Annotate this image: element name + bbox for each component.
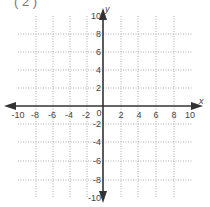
x-axis-label: x: [198, 96, 204, 106]
y-tick-labels: 10 8 6 4 2 -2 -4 -6 -8 -10: [88, 11, 101, 203]
y-tick: -8: [93, 175, 101, 185]
y-tick: -10: [88, 193, 101, 203]
x-tick: 2: [118, 110, 123, 120]
y-tick: 10: [91, 11, 101, 21]
y-tick: -4: [93, 137, 101, 147]
x-tick: 10: [185, 110, 195, 120]
x-tick: -4: [65, 110, 73, 120]
x-axis-left-arrow-icon: [4, 102, 16, 110]
x-tick: 4: [136, 110, 141, 120]
x-tick: 6: [153, 110, 158, 120]
y-axis-label: y: [104, 4, 110, 14]
x-tick: -8: [31, 110, 39, 120]
x-tick: -10: [11, 110, 24, 120]
y-tick: 6: [96, 47, 101, 57]
vertical-grid-lines: [36, 16, 174, 198]
y-tick: 4: [96, 65, 101, 75]
y-tick: -6: [93, 156, 101, 166]
x-tick: 0: [96, 108, 101, 118]
x-tick: -2: [82, 110, 90, 120]
x-tick: 8: [171, 110, 176, 120]
y-tick: 2: [96, 83, 101, 93]
y-tick: 8: [96, 29, 101, 39]
coordinate-plane: x y -10 -8 -6 -4 -2 0 2 4 6 8 10 10 8 6 …: [0, 0, 210, 207]
y-tick: -2: [93, 119, 101, 129]
horizontal-grid-lines: [18, 34, 192, 180]
x-tick: -6: [48, 110, 56, 120]
